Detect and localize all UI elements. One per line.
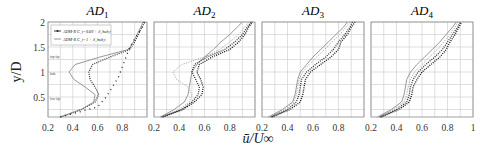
y-tick-label: 0.5 — [33, 93, 45, 103]
series-line — [271, 22, 353, 117]
x-tick-label: 0.2 — [42, 123, 54, 133]
y-tick-label: 1 — [40, 68, 45, 78]
panel-title: AD3 — [301, 3, 324, 20]
series-line — [160, 22, 242, 117]
x-tick-label: 0.6 — [199, 123, 211, 133]
panel-ad2: AD20.20.40.60.8 — [148, 3, 255, 133]
panels: AD10.20.40.60.80.511.52top tiphublow tip… — [33, 3, 476, 133]
velocity-profile-chart: AD10.20.40.60.80.511.52top tiphublow tip… — [0, 0, 488, 150]
x-tick-label: 0.8 — [116, 123, 128, 133]
x-tick-label: 1 — [471, 123, 476, 133]
annotation-label: low tip — [50, 97, 60, 101]
annotation-label: hub — [50, 72, 56, 76]
series-line — [381, 22, 461, 117]
panel-title: AD2 — [193, 3, 216, 20]
series-line — [379, 22, 458, 117]
x-axis-label: ū/U∞ — [243, 131, 274, 146]
x-tick-label: 0.2 — [148, 123, 160, 133]
legend: ADM-R C_t=0.89 + δ_hub,tADM-R C_t=1 + δ_… — [51, 25, 112, 45]
x-tick-label: 0.8 — [333, 123, 345, 133]
x-tick-label: 0.4 — [282, 123, 294, 133]
annotation-label: top tip — [50, 55, 59, 59]
x-tick-label: 0.2 — [365, 123, 377, 133]
x-tick-label: 0.8 — [224, 123, 236, 133]
y-tick-label: 2 — [40, 18, 45, 28]
series-line — [272, 22, 355, 117]
x-tick-label: 0.6 — [307, 123, 319, 133]
x-tick-label: 0.4 — [67, 123, 79, 133]
panel-ad4: AD40.20.40.60.81 — [365, 3, 476, 133]
x-tick-label: 0.6 — [416, 123, 428, 133]
x-tick-label: 0.4 — [391, 123, 403, 133]
panel-title: AD1 — [86, 3, 109, 20]
panel-ad3: AD30.20.40.60.8 — [256, 3, 364, 133]
x-tick-label: 0.4 — [173, 123, 185, 133]
x-tick-label: 0.8 — [442, 123, 454, 133]
y-tick-label: 1.5 — [33, 43, 45, 53]
y-axis-label: y/D — [9, 62, 24, 83]
series-line — [162, 22, 252, 117]
panel-title: AD4 — [410, 3, 433, 20]
x-tick-label: 0.6 — [92, 123, 104, 133]
series-line — [268, 22, 347, 117]
panel-ad1: AD10.20.40.60.80.511.52top tiphublow tip… — [33, 3, 147, 133]
